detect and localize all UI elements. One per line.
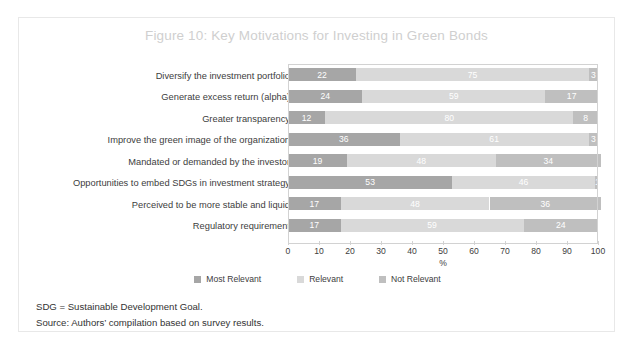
bar-segment: 8 [573,111,598,124]
category-label: Generate excess return (alpha) [161,92,290,102]
axis-tick [319,241,320,245]
chart-legend: Most RelevantRelevantNot Relevant [19,274,616,284]
chart-row: Regulatory requirement175924 [19,216,616,238]
bar-segment: 59 [341,219,524,232]
chart-row: Perceived to be more stable and liquid17… [19,194,616,216]
bar-value-label: 53 [288,177,452,187]
figure-title: Figure 10: Key Motivations for Investing… [19,28,614,43]
bar-segment: 17 [288,197,341,210]
category-label: Mandated or demanded by the investor [128,157,290,167]
bar-segment: 59 [362,90,545,103]
category-label: Regulatory requirement [193,221,290,231]
bar-value-label: 8 [573,113,598,123]
bar-value-label: 17 [288,220,341,230]
bar-value-label: 22 [288,70,356,80]
bar-value-label: 24 [288,91,362,101]
legend-item[interactable]: Relevant [297,274,343,284]
axis-tick-label: 50 [438,246,448,256]
chart-row: Greater transparency12808 [19,108,616,130]
bar-value-label: 80 [325,113,573,123]
bar-segment: 3 [589,133,598,146]
legend-swatch-icon [194,276,201,283]
axis-tick [598,241,599,245]
axis-tick [288,241,289,245]
axis-tick [505,241,506,245]
axis-tick-label: 80 [531,246,541,256]
axis-tick-label: 40 [407,246,417,256]
stacked-bar: 36613 [288,133,598,146]
legend-label: Not Relevant [391,274,441,284]
legend-label: Most Relevant [206,274,261,284]
bar-value-label: 19 [288,156,347,166]
bar-segment: 3 [589,68,598,81]
stacked-bar: 245917 [288,90,598,103]
legend-label: Relevant [309,274,343,284]
category-label: Opportunities to embed SDGs in investmen… [73,178,290,188]
chart-row: Opportunities to embed SDGs in investmen… [19,173,616,195]
axis-tick [381,241,382,245]
bar-value-label: 61 [400,134,589,144]
note-source: Source: Authors’ compilation based on su… [36,315,596,331]
bar-segment: 24 [524,219,598,232]
bar-segment: 53 [288,176,452,189]
chart-row: Diversify the investment portfolio22753 [19,65,616,87]
axis-tick [412,241,413,245]
chart-row: Generate excess return (alpha)245917 [19,87,616,109]
bar-value-label: 3 [589,70,598,80]
bar-segment: 48 [341,197,490,210]
legend-item[interactable]: Most Relevant [194,274,261,284]
bar-value-label: 36 [288,134,400,144]
bar-value-label: 46 [452,177,595,187]
bar-value-label: 34 [496,156,601,166]
axis-tick-label: 30 [376,246,386,256]
bar-segment: 12 [288,111,325,124]
axis-tick-label: 60 [469,246,479,256]
figure-notes: SDG = Sustainable Development Goal. Sour… [36,299,596,331]
bar-value-label: 12 [288,113,325,123]
category-label: Improve the green image of the organizat… [108,135,290,145]
bar-value-label: 59 [341,220,524,230]
figure-card: Figure 10: Key Motivations for Investing… [18,17,615,332]
axis-tick [350,241,351,245]
note-sdg: SDG = Sustainable Development Goal. [36,299,596,315]
stacked-bar: 22753 [288,68,598,81]
bar-segment: 1 [595,176,598,189]
axis-tick-label: 0 [286,246,291,256]
x-axis: 0102030405060708090100 [288,245,598,259]
axis-tick-label: 10 [314,246,324,256]
axis-tick-label: 70 [500,246,510,256]
legend-item[interactable]: Not Relevant [379,274,441,284]
category-label: Diversify the investment portfolio [156,71,290,81]
axis-tick-label: 20 [345,246,355,256]
bar-segment: 22 [288,68,356,81]
axis-tick [443,241,444,245]
bar-segment: 17 [545,90,598,103]
bar-segment: 36 [490,197,602,210]
bar-value-label: 48 [347,156,496,166]
bar-segment: 34 [496,154,601,167]
bar-segment: 75 [356,68,589,81]
bar-segment: 48 [347,154,496,167]
axis-tick [567,241,568,245]
bar-value-label: 3 [589,134,598,144]
stacked-bar: 53461 [288,176,598,189]
stacked-bar-chart: Diversify the investment portfolio22753G… [19,64,616,244]
stacked-bar: 174836 [288,197,598,210]
bar-segment: 36 [288,133,400,146]
stacked-bar: 12808 [288,111,598,124]
bar-segment: 17 [288,219,341,232]
bar-segment: 80 [325,111,573,124]
chart-row: Mandated or demanded by the investor1948… [19,151,616,173]
bar-value-label: 36 [490,199,602,209]
axis-tick [474,241,475,245]
bar-segment: 61 [400,133,589,146]
legend-swatch-icon [379,276,386,283]
axis-tick-label: 100 [591,246,605,256]
bar-segment: 46 [452,176,595,189]
chart-row: Improve the green image of the organizat… [19,130,616,152]
bar-value-label: 1 [595,177,598,187]
stacked-bar: 175924 [288,219,598,232]
bar-segment: 24 [288,90,362,103]
category-label: Greater transparency [202,114,290,124]
x-axis-label: % [288,258,598,268]
